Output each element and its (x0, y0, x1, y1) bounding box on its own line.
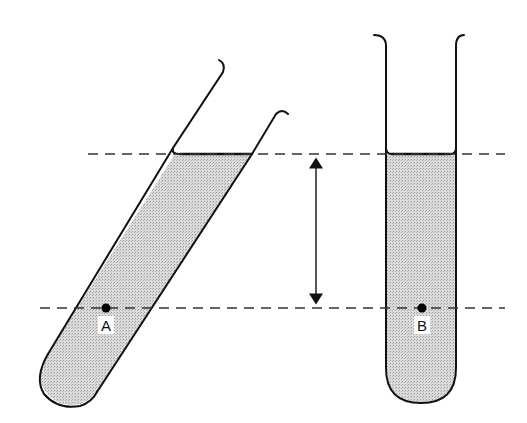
upright-tube-liquid (387, 154, 456, 402)
hydrostatic-pressure-diagram: A B (0, 0, 527, 423)
label-b: B (417, 317, 427, 334)
label-a: A (101, 317, 111, 334)
point-a-marker (102, 304, 111, 313)
point-b-marker (418, 304, 427, 313)
